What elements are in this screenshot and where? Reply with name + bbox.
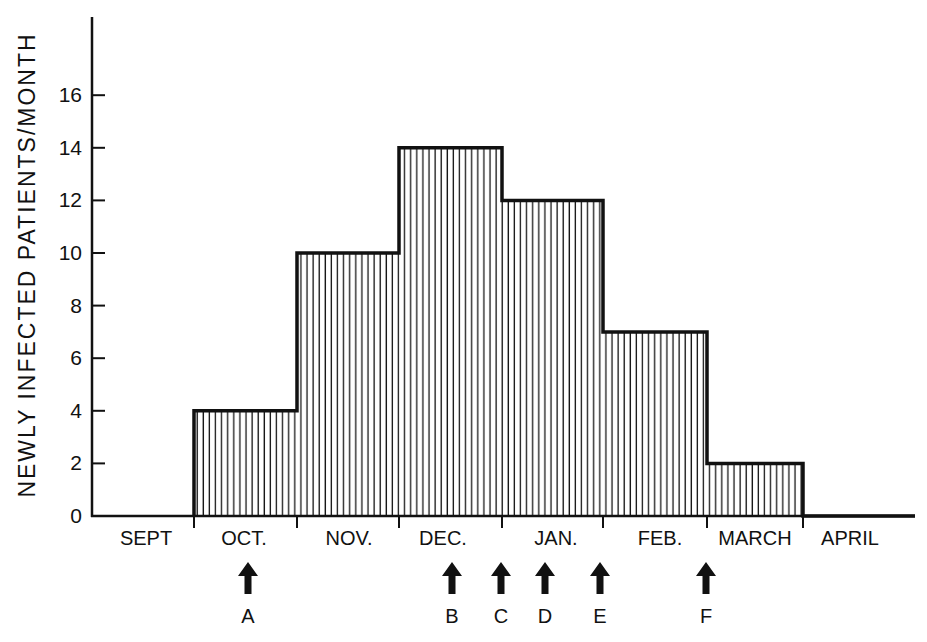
month-label-jan: JAN. [496, 528, 616, 548]
y-tick-8: 8 [46, 295, 82, 316]
y-tick-6: 6 [46, 347, 82, 368]
y-tick-4: 4 [46, 400, 82, 421]
marker-label-e: E [588, 606, 612, 626]
up-arrow-icon [442, 562, 462, 594]
month-label-oct: OCT. [184, 528, 304, 548]
marker-label-a: A [236, 606, 260, 626]
up-arrow-icon [491, 562, 511, 594]
bar-oct [194, 411, 297, 516]
up-arrow-icon [238, 562, 258, 594]
up-arrow-icon [535, 562, 555, 594]
up-arrow-icon [696, 562, 716, 594]
marker-label-f: F [694, 606, 718, 626]
bar-feb [603, 332, 707, 516]
month-label-dec: DEC. [383, 528, 503, 548]
y-axis-label: NEWLY INFECTED PATIENTS/MONTH [14, 15, 41, 515]
up-arrow-icon [590, 562, 610, 594]
bar-jan [502, 200, 603, 516]
y-tick-0: 0 [46, 505, 82, 526]
marker-label-c: C [489, 606, 513, 626]
bars [194, 148, 803, 516]
y-tick-2: 2 [46, 452, 82, 473]
bar-dec [399, 148, 502, 516]
arrow-markers [238, 562, 716, 594]
y-tick-10: 10 [46, 242, 82, 263]
month-label-april: APRIL [790, 528, 910, 548]
y-tick-14: 14 [46, 137, 82, 158]
marker-label-d: D [533, 606, 557, 626]
y-tick-12: 12 [46, 189, 82, 210]
bar-march [707, 463, 803, 516]
bar-nov [297, 253, 399, 516]
marker-label-b: B [440, 606, 464, 626]
y-ticks [92, 95, 105, 463]
y-tick-16: 16 [46, 84, 82, 105]
x-ticks [194, 516, 803, 528]
